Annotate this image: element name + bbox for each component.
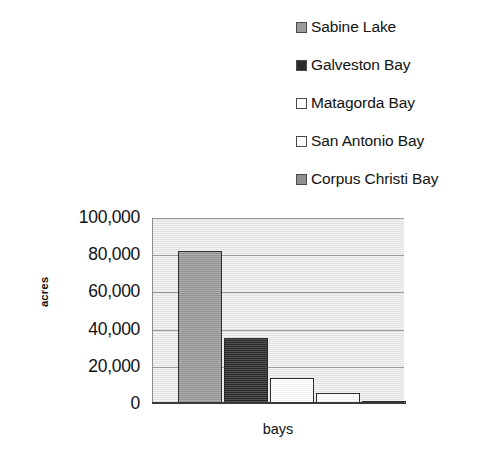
legend-item-label: Matagorda Bay [311,94,415,112]
bar-series [152,218,404,404]
bar [270,378,314,404]
y-axis-tick-label: 60,000 [88,284,140,302]
bar-texture [271,379,313,403]
y-axis-tick-label: 100,000 [79,209,140,227]
legend-item-label: San Antonio Bay [311,132,424,150]
plot-area [152,218,404,404]
bar-chart-figure: Sabine Lake Galveston Bay Matagorda Bay … [0,0,491,459]
bar-texture [225,339,267,403]
legend-item: Galveston Bay [296,46,491,84]
y-axis-tick-label: 20,000 [88,358,140,376]
y-axis-tick-label: 0 [131,395,140,413]
legend-swatch-icon [296,136,307,147]
bar [178,251,222,404]
y-axis-tick-label: 80,000 [88,246,140,264]
legend-item-label: Sabine Lake [311,18,396,36]
legend-swatch-icon [296,60,307,71]
y-axis-tick-labels: 100,00080,00060,00040,00020,0000 [34,206,146,416]
chart-legend: Sabine Lake Galveston Bay Matagorda Bay … [296,8,491,198]
legend-item: Sabine Lake [296,8,491,46]
legend-item: San Antonio Bay [296,122,491,160]
legend-swatch-icon [296,22,307,33]
legend-swatch-icon [296,98,307,109]
x-axis-title: bays [152,421,404,437]
legend-item: Matagorda Bay [296,84,491,122]
legend-item: Corpus Christi Bay [296,160,491,198]
legend-swatch-icon [296,174,307,185]
y-axis-tick-label: 40,000 [88,321,140,339]
legend-item-label: Galveston Bay [311,56,411,74]
x-axis-line [152,402,404,404]
bar-texture [179,252,221,403]
legend-item-label: Corpus Christi Bay [311,170,438,188]
bar [224,338,268,404]
